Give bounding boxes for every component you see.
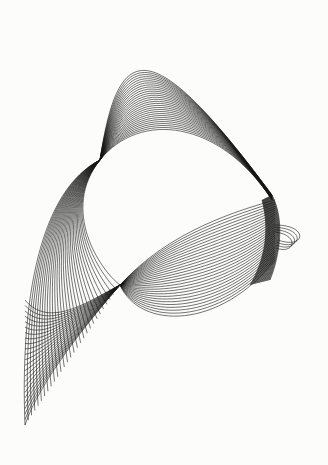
string-art-figure [0, 0, 328, 465]
